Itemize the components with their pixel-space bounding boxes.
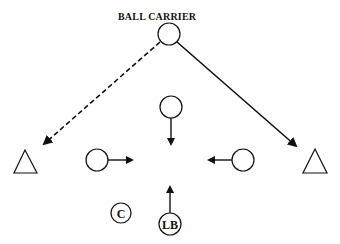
middle-defender-circle: [160, 96, 182, 118]
diagram-canvas: C LB: [0, 0, 340, 244]
solid-run-line: [177, 42, 296, 146]
ball-carrier-title: BALL CARRIER: [118, 11, 196, 22]
left-defender-circle: [86, 149, 108, 171]
play-diagram: C LB BALL CARRIER: [0, 0, 340, 244]
linebacker-label: LB: [162, 218, 178, 232]
right-triangle: [303, 149, 327, 173]
left-triangle: [14, 150, 37, 173]
right-defender-circle: [232, 149, 254, 171]
center-label: C: [117, 207, 126, 221]
ball-carrier-circle: [158, 23, 180, 45]
dashed-pitch-line: [44, 42, 160, 144]
